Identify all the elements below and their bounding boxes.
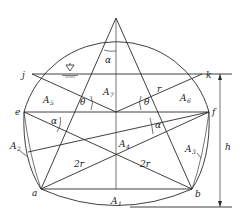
tunnel-star-diagram: j k e f a b h α α α θ θ r 2r 2r A 1 A 2 … bbox=[0, 0, 243, 220]
alpha-top-arc bbox=[104, 50, 116, 51]
label-A6: A 6 bbox=[179, 93, 191, 104]
label-A5: A 5 bbox=[42, 95, 54, 106]
label-f: f bbox=[211, 107, 217, 117]
label-alpha-right: α bbox=[155, 120, 161, 130]
label-A7: A 7 bbox=[102, 87, 114, 98]
svg-text:A: A bbox=[184, 144, 192, 154]
label-alpha-left: α bbox=[51, 116, 57, 126]
svg-text:4: 4 bbox=[125, 143, 130, 150]
label-h: h bbox=[225, 142, 231, 152]
label-k: k bbox=[206, 70, 211, 80]
label-2r-right: 2r bbox=[139, 159, 151, 169]
svg-text:6: 6 bbox=[187, 97, 191, 104]
theta-left-arc bbox=[91, 96, 93, 110]
alpha-right-arc bbox=[150, 118, 153, 134]
h-arrow-top bbox=[218, 74, 222, 80]
left-side-arc bbox=[24, 112, 41, 189]
label-A3: A 3 bbox=[184, 144, 196, 155]
water-level-icon bbox=[62, 63, 78, 77]
label-A2: A 2 bbox=[9, 141, 21, 152]
top-to-b bbox=[116, 18, 192, 189]
h-arrow-bottom bbox=[218, 201, 222, 207]
label-theta-left: θ bbox=[80, 97, 86, 107]
label-j: j bbox=[20, 70, 25, 80]
label-2r-left: 2r bbox=[73, 159, 85, 169]
svg-text:3: 3 bbox=[192, 148, 196, 155]
label-A1: A 1 bbox=[110, 196, 122, 207]
svg-text:1: 1 bbox=[118, 200, 122, 207]
label-theta-right: θ bbox=[144, 97, 150, 107]
label-alpha-top: α bbox=[105, 55, 111, 65]
svg-text:A: A bbox=[118, 139, 126, 149]
A3-leader bbox=[197, 153, 201, 158]
svg-text:A: A bbox=[9, 141, 17, 151]
label-A4: A 4 bbox=[118, 139, 130, 150]
e-to-b bbox=[24, 112, 192, 189]
theta-right-arc bbox=[140, 96, 142, 110]
svg-text:5: 5 bbox=[50, 99, 54, 106]
alpha-left-arc bbox=[57, 117, 61, 132]
svg-text:A: A bbox=[110, 196, 118, 206]
label-b: b bbox=[195, 189, 201, 199]
label-a: a bbox=[32, 188, 37, 198]
diagram-canvas: j k e f a b h α α α θ θ r 2r 2r A 1 A 2 … bbox=[0, 0, 243, 220]
label-e: e bbox=[15, 107, 20, 117]
a-to-f bbox=[41, 112, 209, 189]
svg-text:7: 7 bbox=[110, 91, 114, 98]
svg-text:A: A bbox=[42, 95, 50, 105]
label-r: r bbox=[157, 84, 162, 94]
svg-text:A: A bbox=[179, 93, 187, 103]
svg-text:A: A bbox=[102, 87, 110, 97]
